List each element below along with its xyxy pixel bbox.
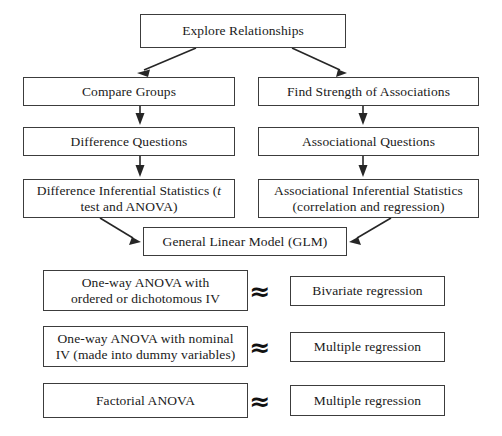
node-associational-inferential-statistics: Associational Inferential Statistics (co… bbox=[258, 179, 479, 218]
node-difference-inferential-statistics-line1: Difference Inferential Statistics ( bbox=[37, 183, 218, 198]
node-compare-groups-label: Compare Groups bbox=[28, 84, 230, 100]
approx-equal-icon-row-2: ≈ bbox=[242, 328, 278, 366]
approx-equal-symbol-2: ≈ bbox=[250, 335, 271, 360]
arrow-root-to-find-strength bbox=[292, 48, 347, 77]
connector-layer bbox=[0, 0, 502, 436]
node-associational-questions-label: Associational Questions bbox=[263, 134, 474, 150]
node-oneway-anova-nominal-iv: One-way ANOVA with nominal IV (made into… bbox=[43, 326, 248, 367]
node-difference-inferential-statistics: Difference Inferential Statistics (t tes… bbox=[23, 179, 235, 218]
arrow-compare-groups-to-difference-questions bbox=[136, 106, 145, 125]
node-find-strength-of-associations-label: Find Strength of Associations bbox=[263, 84, 474, 100]
approx-equal-symbol-1: ≈ bbox=[250, 279, 271, 304]
node-oneway-anova-ordered-iv-line1: One-way ANOVA with bbox=[82, 275, 210, 290]
node-general-linear-model-label: General Linear Model (GLM) bbox=[148, 234, 342, 250]
node-bivariate-regression-label: Bivariate regression bbox=[295, 283, 440, 299]
node-oneway-anova-ordered-iv-line2: ordered or dichotomous IV bbox=[71, 291, 220, 306]
approx-equal-icon-row-1: ≈ bbox=[242, 272, 278, 310]
node-oneway-anova-nominal-iv-line1: One-way ANOVA with nominal bbox=[58, 331, 234, 346]
node-associational-inferential-statistics-line1: Associational Inferential Statistics bbox=[274, 183, 463, 198]
node-bivariate-regression: Bivariate regression bbox=[290, 276, 445, 306]
node-difference-inferential-statistics-line2: test and ANOVA) bbox=[80, 199, 177, 214]
node-multiple-regression-1: Multiple regression bbox=[290, 332, 445, 362]
node-difference-questions-label: Difference Questions bbox=[28, 134, 230, 150]
node-compare-groups: Compare Groups bbox=[23, 77, 235, 106]
node-difference-inferential-statistics-italic-t: t bbox=[217, 183, 221, 198]
approx-equal-symbol-3: ≈ bbox=[250, 389, 271, 414]
approx-equal-icon-row-3: ≈ bbox=[242, 382, 278, 420]
node-explore-relationships-label: Explore Relationships bbox=[145, 23, 341, 39]
flowchart-diagram: Explore Relationships Compare Groups Fin… bbox=[0, 0, 502, 436]
node-explore-relationships: Explore Relationships bbox=[140, 14, 346, 48]
node-general-linear-model: General Linear Model (GLM) bbox=[143, 227, 347, 256]
arrow-root-to-compare-groups bbox=[137, 48, 196, 77]
arrow-difference-questions-to-difference-stats bbox=[136, 156, 145, 177]
node-associational-inferential-statistics-line2: (correlation and regression) bbox=[293, 199, 445, 214]
node-oneway-anova-nominal-iv-line2: IV (made into dummy variables) bbox=[56, 347, 236, 362]
node-multiple-regression-2: Multiple regression bbox=[290, 385, 445, 416]
node-factorial-anova-label: Factorial ANOVA bbox=[48, 393, 243, 409]
arrow-associational-questions-to-associational-stats bbox=[359, 156, 368, 177]
node-find-strength-of-associations: Find Strength of Associations bbox=[258, 77, 479, 106]
node-multiple-regression-1-label: Multiple regression bbox=[295, 339, 440, 355]
arrow-find-strength-to-associational-questions bbox=[359, 106, 368, 125]
node-oneway-anova-ordered-iv: One-way ANOVA with ordered or dichotomou… bbox=[43, 270, 248, 311]
node-difference-questions: Difference Questions bbox=[23, 127, 235, 156]
arrow-difference-stats-to-glm bbox=[100, 218, 141, 245]
node-multiple-regression-2-label: Multiple regression bbox=[295, 393, 440, 409]
node-associational-questions: Associational Questions bbox=[258, 127, 479, 156]
node-factorial-anova: Factorial ANOVA bbox=[43, 383, 248, 418]
arrow-associational-stats-to-glm bbox=[349, 218, 391, 245]
